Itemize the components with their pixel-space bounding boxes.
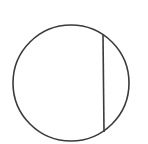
diagram-canvas — [0, 0, 148, 144]
circle-shape — [13, 25, 129, 141]
chord-line — [103, 35, 104, 132]
geometry-figure — [0, 0, 148, 144]
